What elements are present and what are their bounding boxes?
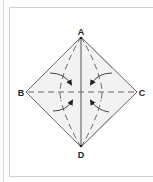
vertex-label-a: A bbox=[78, 27, 85, 37]
vertex-a-point bbox=[80, 37, 83, 40]
vertex-label-b: B bbox=[18, 88, 25, 98]
vertex-label-d: D bbox=[78, 150, 85, 160]
vertex-d-point bbox=[80, 145, 83, 148]
origami-diagram: A B C D bbox=[0, 0, 153, 182]
vertex-label-c: C bbox=[139, 88, 146, 98]
